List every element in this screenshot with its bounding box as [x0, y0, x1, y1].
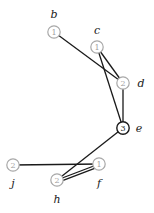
node-value: 2 — [120, 79, 125, 88]
edges — [13, 32, 123, 182]
edge-b-d — [54, 32, 123, 83]
node-label: c — [94, 24, 100, 37]
node-c: 1c — [91, 24, 103, 54]
node-e: 3e — [117, 122, 143, 135]
edge-j-f — [13, 164, 99, 165]
node-value: 3 — [120, 124, 125, 133]
node-label: d — [137, 77, 144, 90]
node-label: j — [8, 177, 15, 190]
node-value: 1 — [96, 160, 101, 169]
node-label: f — [96, 177, 103, 190]
node-b: 1b — [48, 8, 60, 39]
graph-diagram: 1b1c2d3e2j1f2h — [0, 0, 154, 213]
node-h: 2h — [51, 174, 63, 206]
node-value: 1 — [51, 28, 56, 37]
node-value: 1 — [94, 43, 99, 52]
node-value: 2 — [54, 176, 59, 185]
node-value: 2 — [10, 161, 15, 170]
node-label: h — [53, 193, 60, 206]
node-label: e — [136, 122, 143, 135]
node-j: 2j — [7, 159, 19, 190]
node-d: 2d — [117, 77, 145, 90]
node-label: b — [50, 8, 57, 21]
node-f: 1f — [93, 158, 105, 190]
edge-e-h — [57, 128, 123, 180]
